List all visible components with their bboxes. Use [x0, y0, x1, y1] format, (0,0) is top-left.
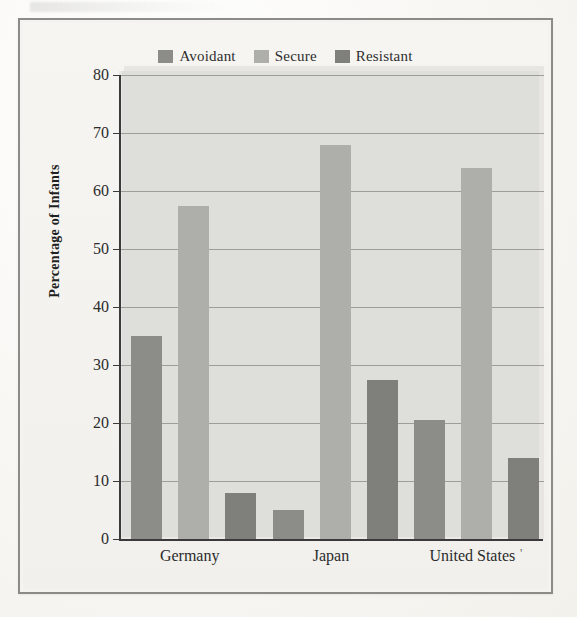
x-axis-line	[119, 539, 543, 541]
y-tick-label-0: 0	[57, 530, 109, 548]
y-tick-label-10: 10	[57, 472, 109, 490]
scan-smudge	[30, 2, 230, 12]
y-tick-label-20: 20	[57, 414, 109, 432]
figure-inner-panel: Avoidant Secure Resistant 01020304050607…	[23, 23, 548, 589]
bar-united-states-secure	[461, 168, 492, 539]
bar-group-united-states	[414, 75, 539, 539]
bar-japan-resistant	[367, 380, 398, 540]
x-label-japan: Japan	[260, 547, 401, 565]
y-tick-label-80: 80	[57, 66, 109, 84]
plot-area: 01020304050607080 GermanyJapanUnited Sta…	[23, 23, 548, 589]
figure-frame: Avoidant Secure Resistant 01020304050607…	[18, 18, 553, 594]
y-tick-label-60: 60	[57, 182, 109, 200]
scan-artifact-mark: '	[520, 545, 522, 561]
y-tick-label-30: 30	[57, 356, 109, 374]
y-axis-title: Percentage of Infants	[47, 121, 63, 341]
bar-group-germany	[131, 75, 256, 539]
y-tick-label-70: 70	[57, 124, 109, 142]
bar-japan-secure	[320, 145, 351, 539]
y-tick-label-50: 50	[57, 240, 109, 258]
y-tick-label-40: 40	[57, 298, 109, 316]
bar-germany-avoidant	[131, 336, 162, 539]
bar-united-states-resistant	[508, 458, 539, 539]
bar-japan-avoidant	[273, 510, 304, 539]
bar-germany-secure	[178, 206, 209, 540]
bar-united-states-avoidant	[414, 420, 445, 539]
x-label-germany: Germany	[119, 547, 260, 565]
bar-germany-resistant	[225, 493, 256, 539]
bars-layer	[119, 75, 543, 539]
bar-group-japan	[273, 75, 398, 539]
